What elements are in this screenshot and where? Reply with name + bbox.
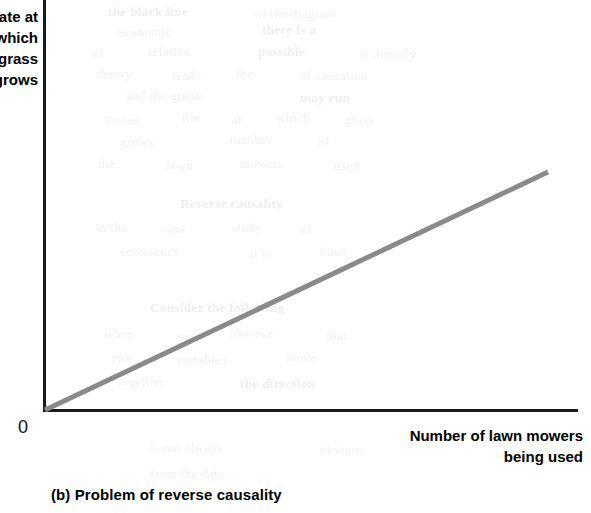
figure-caption: (b) Problem of reverse causality [51, 486, 282, 503]
origin-label: 0 [18, 417, 28, 438]
figure-panel: the black lineof the diagrameconomicther… [0, 0, 591, 513]
y-axis-label: Rate at which grass grows [0, 6, 38, 90]
trend-line [45, 172, 548, 410]
x-axis-label: Number of lawn mowers being used [283, 425, 583, 467]
